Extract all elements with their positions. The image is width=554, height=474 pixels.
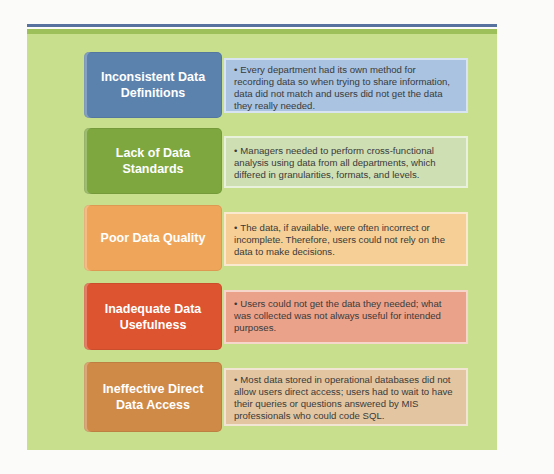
row-ineffective-direct-data-access: Ineffective Direct Data Access •Most dat… <box>84 362 472 432</box>
description-box: •Most data stored in operational databas… <box>224 368 468 426</box>
bullet-icon: • <box>234 374 237 385</box>
diagram-panel: Inconsistent Data Definitions •Every dep… <box>27 29 497 450</box>
label-box: Poor Data Quality <box>84 205 222 271</box>
bullet-icon: • <box>234 222 237 233</box>
row-inconsistent-data-definitions: Inconsistent Data Definitions •Every dep… <box>84 52 472 118</box>
description-text: The data, if available, were often incor… <box>234 222 445 257</box>
row-poor-data-quality: Poor Data Quality •The data, if availabl… <box>84 205 472 271</box>
label-text: Ineffective Direct Data Access <box>84 381 222 413</box>
label-text: Inconsistent Data Definitions <box>84 69 222 101</box>
description-text: Most data stored in operational database… <box>234 374 453 421</box>
label-text: Lack of Data Standards <box>84 145 222 177</box>
description-text: Managers needed to perform cross-functio… <box>234 145 436 180</box>
label-box: Inconsistent Data Definitions <box>84 52 222 118</box>
bullet-icon: • <box>234 145 237 156</box>
description-box: •Users could not get the data they neede… <box>224 290 468 344</box>
description-box: •Every department had its own method for… <box>224 58 468 113</box>
row-inadequate-data-usefulness: Inadequate Data Usefulness •Users could … <box>84 283 472 350</box>
top-rule <box>27 24 497 27</box>
label-box: Inadequate Data Usefulness <box>84 283 222 350</box>
bullet-icon: • <box>234 298 237 309</box>
description-text: Every department had its own method for … <box>234 64 450 111</box>
label-text: Poor Data Quality <box>87 230 220 246</box>
panel-header-band <box>27 29 497 34</box>
bullet-icon: • <box>234 64 237 75</box>
description-text: Users could not get the data they needed… <box>234 298 441 333</box>
description-box: •The data, if available, were often inco… <box>224 212 468 266</box>
label-box: Lack of Data Standards <box>84 128 222 194</box>
row-lack-of-data-standards: Lack of Data Standards •Managers needed … <box>84 128 472 194</box>
description-box: •Managers needed to perform cross-functi… <box>224 136 468 188</box>
label-box: Ineffective Direct Data Access <box>84 362 222 432</box>
label-text: Inadequate Data Usefulness <box>84 301 222 333</box>
